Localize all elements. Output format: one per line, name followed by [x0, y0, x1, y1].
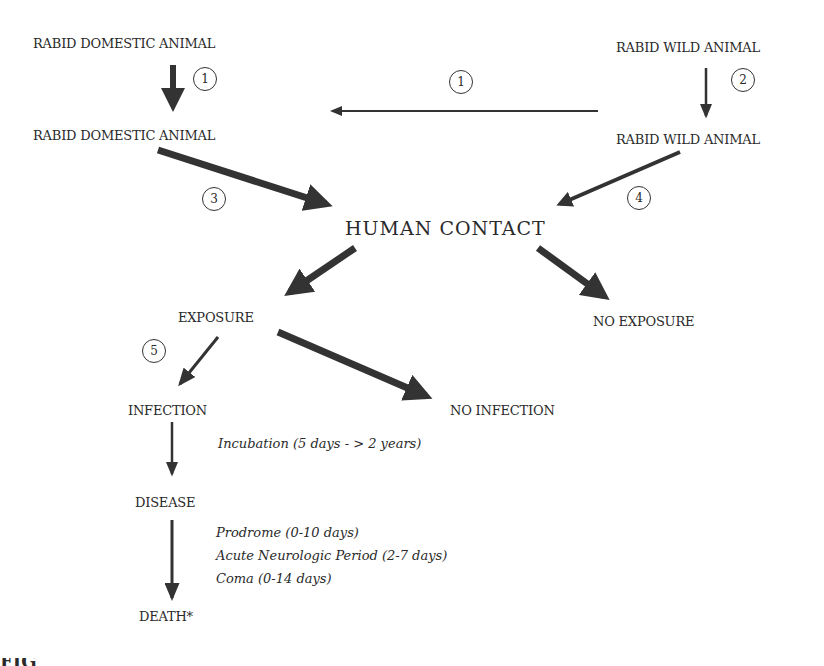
node-rabid-domestic-top: RABID DOMESTIC ANIMAL: [33, 36, 215, 51]
node-rabid-wild-bottom: RABID WILD ANIMAL: [616, 132, 760, 147]
node-rabid-wild-top: RABID WILD ANIMAL: [616, 40, 760, 55]
arrow-contact-to-exposure: [290, 248, 355, 292]
node-no-infection: NO INFECTION: [450, 403, 555, 418]
arrow-exposure-to-no-infection: [278, 332, 426, 396]
marker-1-wild-to-domestic: 1: [449, 70, 473, 94]
node-infection: INFECTION: [128, 403, 207, 418]
arrow-layer: [0, 0, 824, 666]
marker-3-domestic-contact: 3: [202, 187, 226, 211]
node-human-contact: HUMAN CONTACT: [345, 217, 546, 239]
annotation-acute-neurologic: Acute Neurologic Period (2-7 days): [216, 548, 447, 563]
arrow-exposure-to-infection: [180, 337, 218, 384]
annotation-incubation: Incubation (5 days - > 2 years): [218, 436, 421, 451]
node-death: DEATH*: [139, 609, 193, 624]
arrow-wild-to-contact: [560, 152, 680, 204]
marker-4-wild-contact: 4: [627, 186, 651, 210]
marker-2-wild: 2: [731, 68, 755, 92]
arrow-contact-to-no-exposure: [538, 248, 604, 296]
node-exposure: EXPOSURE: [178, 310, 254, 325]
node-disease: DISEASE: [135, 495, 195, 510]
arrow-domestic-to-contact: [158, 150, 326, 204]
node-no-exposure: NO EXPOSURE: [593, 314, 694, 329]
node-rabid-domestic-bottom: RABID DOMESTIC ANIMAL: [33, 128, 215, 143]
marker-1-domestic: 1: [193, 67, 217, 91]
figure-caption-fragment: FIG: [0, 658, 66, 666]
marker-5-exposure-infection: 5: [142, 339, 166, 363]
annotation-coma: Coma (0-14 days): [216, 571, 332, 586]
annotation-prodrome: Prodrome (0-10 days): [216, 525, 359, 540]
